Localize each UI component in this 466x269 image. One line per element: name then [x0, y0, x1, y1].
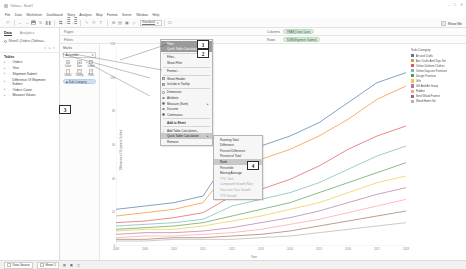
fix-axes-icon[interactable]: ☐: [167, 19, 174, 26]
highlight-icon[interactable]: ✎: [83, 19, 90, 26]
pages-shelf[interactable]: [78, 28, 263, 36]
legend-item[interactable]: Rubber: [411, 89, 463, 93]
annotation-marker-3: 3: [59, 105, 71, 114]
table-item[interactable]: ▸□Measure Values: [4, 92, 55, 98]
marks-button-detail[interactable]: ⁙Detail: [63, 69, 73, 77]
sort-desc-icon[interactable]: ↓≣: [71, 19, 78, 26]
fit-icon[interactable]: ⊞: [110, 19, 117, 26]
menu-item-window[interactable]: Window: [136, 13, 148, 17]
menu-bar[interactable]: FileDataWorksheetDashboardStoryAnalysisM…: [0, 11, 466, 18]
legend-swatch: [411, 54, 414, 57]
table-item-label: Orders Count: [13, 88, 32, 92]
chevron-right-icon: ▸: [4, 72, 7, 75]
sheet-tab-1[interactable]: Sheet 1: [37, 262, 59, 269]
marks-pill-label: Sub-Category: [69, 80, 87, 84]
legend-item[interactable]: Steel Wood Frames: [411, 94, 463, 98]
sort-asc-icon[interactable]: ↑≣: [64, 19, 71, 26]
group-icon[interactable]: ⚇: [90, 19, 97, 26]
ctx-remove[interactable]: Remove: [161, 139, 212, 145]
sheet-tab-label: Sheet 1: [45, 263, 56, 267]
swap-axes-icon[interactable]: ⇆: [57, 19, 64, 26]
mark-type-dropdown[interactable]: Automatic ▾: [63, 52, 96, 58]
x-axis-tick-label: 2015: [316, 247, 322, 251]
close-button[interactable]: ✕: [460, 3, 463, 7]
menu-item-worksheet[interactable]: Worksheet: [26, 13, 42, 17]
menu-item-label: Add Table Calculation...: [167, 129, 199, 133]
legend-label: Online Daycare Furniture: [416, 69, 447, 73]
minimize-button[interactable]: –: [448, 3, 450, 7]
data-pane: Data Analytics Sheet1 (Orders (Tableau..…: [0, 28, 60, 260]
sort-icon[interactable]: ⇅: [48, 46, 51, 50]
ctx-show-filter[interactable]: Show Filter: [161, 60, 212, 66]
menu-item-format[interactable]: Format: [107, 13, 117, 17]
legend-item[interactable]: Design Furniture: [411, 74, 463, 78]
new-worksheet-icon[interactable]: ▤: [63, 263, 66, 267]
filters-rows-row: Filters Rows SUM(Shipment Submit): [60, 36, 466, 44]
data-pane-search-row[interactable]: ⚲ ⇅ ▾: [0, 45, 59, 53]
menu-item-file[interactable]: File: [5, 13, 10, 17]
redo-icon[interactable]: →: [23, 19, 30, 26]
new-dashboard-icon[interactable]: ▣: [70, 263, 73, 267]
show-cards-icon[interactable]: ▣: [124, 19, 131, 26]
toolbar[interactable]: ☉ ← → 💾 ↻ ❚❚ ⇆ ↑≣ ↓≣ ✎ ⚇ T ⊞ ▤ ▣ ▷ Stand…: [0, 18, 466, 28]
menu-item-label: Filter...: [167, 55, 176, 59]
pill-columns-0[interactable]: YEAR(Order Date): [283, 29, 314, 34]
marks-button-color[interactable]: ●Color: [63, 60, 73, 68]
legend-item[interactable]: Arts Crafts And Toys Set: [411, 59, 463, 63]
filters-label: Filters: [60, 38, 78, 42]
data-source-tab[interactable]: Data Source: [4, 262, 33, 269]
view-area: Pages Columns YEAR(Order Date) Filters R…: [60, 28, 466, 260]
menu-item-story[interactable]: Story: [67, 13, 75, 17]
marks-buttons[interactable]: ●Color▲SizeTLabel⁙Detail▢Tooltip↗Path: [63, 60, 96, 78]
marks-button-label[interactable]: TLabel: [86, 60, 96, 68]
datasource-item[interactable]: Sheet1 (Orders (Tableau...: [0, 38, 59, 45]
menu-item-map[interactable]: Map: [96, 13, 102, 17]
rows-shelf[interactable]: SUM(Shipment Submit): [281, 36, 466, 44]
menu-item-dashboard[interactable]: Dashboard: [46, 13, 62, 17]
ctx-add-to-sheet[interactable]: Add to Sheet: [161, 120, 212, 126]
tab-analytics[interactable]: Analytics: [20, 31, 34, 37]
menu-item-help[interactable]: Help: [152, 13, 159, 17]
undo-icon[interactable]: ←: [16, 19, 23, 26]
search-icon[interactable]: ⚲: [44, 46, 46, 50]
legend-item[interactable]: Art and Crafts: [411, 54, 463, 58]
more-options-icon[interactable]: ▾: [53, 46, 55, 50]
menu-item-data[interactable]: Data: [15, 13, 22, 17]
legend-item[interactable]: Gift And Art Group: [411, 84, 463, 88]
labels-icon[interactable]: T: [97, 19, 104, 26]
save-icon[interactable]: 💾: [30, 19, 37, 26]
menu-item-analysis[interactable]: Analysis: [79, 13, 91, 17]
tables-list[interactable]: ▸□Orders▸□Year▸□Shipment Submit▸□Differe…: [0, 60, 59, 99]
ctx-include-in-tooltip[interactable]: ✓Include in Tooltip: [161, 82, 212, 88]
legend-items[interactable]: Art and CraftsArts Crafts And Toys SetOn…: [411, 54, 463, 104]
marks-pill-sub-category[interactable]: ■ Sub-Category: [63, 79, 96, 84]
tableau-home-icon[interactable]: ☉: [4, 19, 11, 26]
fit-size-dropdown[interactable]: Standard ▾: [140, 20, 162, 26]
legend-item[interactable]: Online Uniform Clothes: [411, 64, 463, 68]
ctx-continuous[interactable]: Continuous: [161, 112, 212, 118]
marks-button-size[interactable]: ▲Size: [75, 60, 85, 68]
show-me-label: Show Me: [448, 22, 462, 26]
legend-item[interactable]: Wood Home Set: [411, 99, 463, 103]
refresh-icon[interactable]: ↻: [37, 19, 44, 26]
presentation-icon[interactable]: ▷: [131, 19, 138, 26]
legend-item[interactable]: Online Daycare Furniture: [411, 69, 463, 73]
menu-item-label: Percent of Total: [220, 154, 241, 158]
color-legend: Sub-Category Art and CraftsArts Crafts A…: [408, 44, 466, 260]
tab-data[interactable]: Data: [4, 31, 12, 37]
show-me-button[interactable]: Show Me: [441, 20, 462, 27]
marks-button-path[interactable]: ↗Path: [86, 69, 96, 77]
table-item[interactable]: ▸□Difference Of Shipment Submit: [4, 77, 55, 87]
format-icon[interactable]: ▤: [117, 19, 124, 26]
pill-rows-0[interactable]: SUM(Shipment Submit): [283, 37, 320, 42]
menu-item-label: Difference: [220, 143, 234, 147]
legend-item[interactable]: Gifts: [411, 79, 463, 83]
marks-button-tooltip[interactable]: ▢Tooltip: [75, 69, 85, 77]
menu-item-server[interactable]: Server: [122, 13, 132, 17]
ctx-format[interactable]: Format...: [161, 68, 212, 74]
new-story-icon[interactable]: ▢: [77, 263, 80, 267]
pause-icon[interactable]: ❚❚: [44, 19, 51, 26]
data-pane-tabs[interactable]: Data Analytics: [0, 28, 59, 38]
maximize-button[interactable]: □: [454, 3, 456, 7]
columns-shelf[interactable]: YEAR(Order Date): [281, 28, 466, 36]
